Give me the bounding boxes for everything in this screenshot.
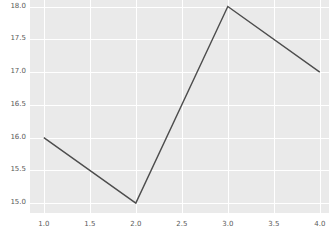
y-axis-tick-label: 16.0 bbox=[0, 134, 26, 141]
x-axis-tick-label: 2.5 bbox=[170, 221, 194, 228]
x-axis-tick-label: 4.0 bbox=[308, 221, 329, 228]
x-axis-tick-label: 1.0 bbox=[32, 221, 56, 228]
y-axis-tick-label: 15.0 bbox=[0, 199, 26, 206]
x-axis-tick-label: 2.0 bbox=[124, 221, 148, 228]
series-1-polyline bbox=[44, 7, 320, 204]
y-axis-tick-label: 17.0 bbox=[0, 68, 26, 75]
y-axis-tick-label: 16.5 bbox=[0, 101, 26, 108]
x-axis-tick-label: 1.5 bbox=[78, 221, 102, 228]
x-axis-tick-label: 3.0 bbox=[216, 221, 240, 228]
plot-area bbox=[30, 0, 329, 213]
y-axis-tick-label: 17.5 bbox=[0, 35, 26, 42]
data-line-series bbox=[30, 0, 329, 213]
chart-figure: 15.015.516.016.517.017.518.0 1.01.52.02.… bbox=[0, 0, 329, 242]
y-axis-tick-label: 15.5 bbox=[0, 166, 26, 173]
x-axis-tick-label: 3.5 bbox=[262, 221, 286, 228]
y-axis-tick-label: 18.0 bbox=[0, 3, 26, 10]
